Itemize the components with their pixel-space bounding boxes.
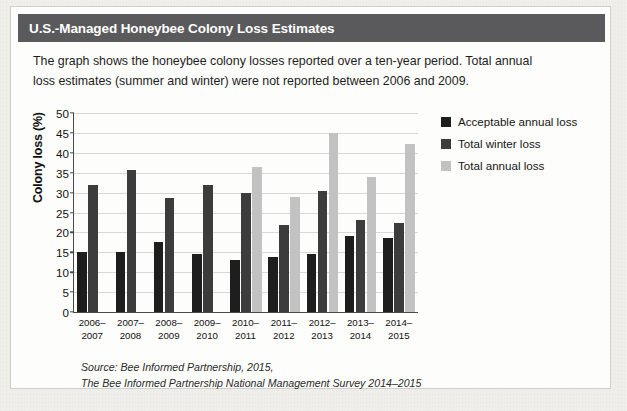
bar-groups — [74, 113, 418, 312]
bar-acceptable — [192, 254, 202, 312]
x-axis-label: 2008–2009 — [150, 317, 188, 343]
legend-item-label: Total annual loss — [458, 159, 544, 172]
bar-acceptable — [383, 238, 393, 312]
bar-winter — [88, 185, 98, 312]
x-axis-label: 2006–2007 — [73, 317, 111, 343]
bar-winter — [127, 170, 137, 312]
y-axis-tick-label: 15 — [56, 246, 69, 259]
y-axis-tick-label: 20 — [56, 226, 69, 239]
bar-annual — [329, 133, 339, 312]
bar-acceptable — [268, 257, 278, 312]
bar-group — [227, 113, 265, 312]
bar-winter — [203, 185, 213, 312]
x-axis-label: 2013–2014 — [341, 317, 379, 343]
y-axis-tick-label: 10 — [56, 266, 69, 279]
bar-acceptable — [116, 252, 126, 312]
x-axis-label: 2011–2012 — [265, 317, 303, 343]
y-axis-tick-label: 35 — [56, 166, 69, 179]
y-axis-label: Colony loss (%) — [31, 112, 45, 203]
source-note: Source: Bee Informed Partnership, 2015, … — [81, 359, 421, 392]
x-axis-label: 2007–2008 — [111, 317, 149, 343]
bar-acceptable — [345, 236, 355, 312]
y-axis-tick-label: 40 — [56, 146, 69, 159]
bar-acceptable — [307, 254, 317, 312]
legend-item: Total annual loss — [441, 159, 577, 172]
description-line-2: loss estimates (summer and winter) were … — [33, 71, 593, 91]
figure-description: The graph shows the honeybee colony loss… — [33, 51, 593, 91]
bar-group — [265, 113, 303, 312]
bar-annual — [252, 167, 262, 312]
y-axis-tick-label: 0 — [63, 306, 69, 319]
bar-acceptable — [154, 242, 164, 312]
x-axis-labels: 2006–20072007–20082008–20092009–20102010… — [73, 317, 418, 343]
page-background: U.S.-Managed Honeybee Colony Loss Estima… — [0, 0, 627, 411]
bar-acceptable — [77, 252, 87, 312]
bar-group — [150, 113, 188, 312]
y-axis-tick-label: 50 — [56, 107, 69, 120]
x-axis-label: 2012–2013 — [303, 317, 341, 343]
bar-annual — [405, 144, 415, 312]
y-axis-tick-label: 30 — [56, 186, 69, 199]
legend-item-label: Total winter loss — [458, 137, 540, 150]
x-axis-label: 2009–2010 — [188, 317, 226, 343]
bar-winter — [394, 223, 404, 312]
plot-area: 05101520253035404550 — [73, 113, 418, 313]
y-axis-tick-label: 45 — [56, 126, 69, 139]
figure-title-bar: U.S.-Managed Honeybee Colony Loss Estima… — [18, 14, 605, 42]
bar-group — [189, 113, 227, 312]
figure-card: U.S.-Managed Honeybee Colony Loss Estima… — [10, 6, 611, 389]
bar-winter — [241, 193, 251, 312]
legend-item: Acceptable annual loss — [441, 115, 577, 128]
legend-item: Total winter loss — [441, 137, 577, 150]
source-line-1: Source: Bee Informed Partnership, 2015, — [81, 359, 421, 375]
y-axis-tick-label: 25 — [56, 206, 69, 219]
bar-chart: Colony loss (%) 05101520253035404550 200… — [33, 107, 593, 332]
bar-acceptable — [230, 260, 240, 312]
bar-annual — [367, 177, 377, 312]
bar-group — [303, 113, 341, 312]
description-line-1: The graph shows the honeybee colony loss… — [33, 51, 593, 71]
legend-swatch-icon — [441, 161, 451, 171]
page-title: U.S.-Managed Honeybee Colony Loss Estima… — [18, 21, 335, 36]
bar-winter — [165, 198, 175, 312]
bar-winter — [279, 225, 289, 312]
y-axis-tick-label: 5 — [63, 286, 69, 299]
legend-item-label: Acceptable annual loss — [458, 115, 577, 128]
bar-winter — [318, 191, 328, 312]
x-axis-label: 2010–2011 — [226, 317, 264, 343]
bar-group — [342, 113, 380, 312]
bar-group — [380, 113, 418, 312]
bar-winter — [356, 220, 366, 312]
legend-swatch-icon — [441, 139, 451, 149]
bar-annual — [290, 197, 300, 312]
chart-legend: Acceptable annual lossTotal winter lossT… — [441, 115, 577, 172]
bar-group — [112, 113, 150, 312]
x-axis-label: 2014–2015 — [380, 317, 418, 343]
legend-swatch-icon — [441, 117, 451, 127]
bar-group — [74, 113, 112, 312]
source-line-2: The Bee Informed Partnership National Ma… — [81, 375, 421, 391]
